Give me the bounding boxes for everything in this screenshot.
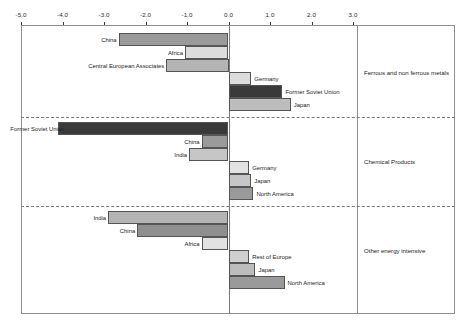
bar: [229, 72, 252, 85]
bar: [202, 237, 229, 250]
bar: [229, 250, 250, 263]
bar: [119, 33, 229, 46]
bar: [229, 276, 285, 289]
bar-label: Africa: [184, 240, 199, 247]
bar: [58, 122, 228, 135]
bar: [137, 224, 228, 237]
bar: [229, 174, 252, 187]
bar: [229, 187, 254, 200]
group-caption: Ferrous and non ferrous metals: [364, 69, 449, 76]
x-axis-tick-label: -3.0: [98, 11, 109, 18]
bar-label: Africa: [168, 49, 183, 56]
x-axis-tick-label: 2.0: [307, 11, 316, 18]
bar: [229, 263, 256, 276]
x-axis-tick-label: -4.0: [57, 11, 68, 18]
bar-label: China: [184, 138, 199, 145]
bar-chart: -5.0-4.0-3.0-2.0-1.00.01.02.03.0 ChinaAf…: [0, 0, 468, 324]
group-caption: Other energy intensive: [364, 247, 425, 254]
bar-label: India: [93, 214, 106, 221]
bar: [108, 211, 228, 224]
bar: [185, 46, 229, 59]
bar-label: North America: [288, 279, 325, 286]
bar: [202, 135, 229, 148]
bar-label: China: [120, 227, 135, 234]
x-axis-tick-label: 0.0: [224, 11, 233, 18]
bar: [229, 98, 291, 111]
bar-label: Former Soviet Union: [285, 88, 339, 95]
bar-label: Germany: [254, 75, 278, 82]
bar-label: India: [174, 151, 187, 158]
x-axis-tick-label: -2.0: [140, 11, 151, 18]
group-caption: Chemical Products: [364, 158, 415, 165]
bar-label: China: [101, 36, 116, 43]
x-axis-tick-label: 3.0: [349, 11, 358, 18]
bar-label: Japan: [258, 266, 274, 273]
bar-label: Japan: [254, 177, 270, 184]
bar: [229, 85, 283, 98]
bar-label: Japan: [294, 101, 310, 108]
bar: [166, 59, 228, 72]
x-axis-tick-label: -5.0: [15, 11, 26, 18]
bar-label: Germany: [252, 164, 276, 171]
caption-panel-divider: [357, 25, 358, 314]
bar: [229, 161, 250, 174]
bar-label: Central European Associates: [88, 62, 164, 69]
bar-label: Former Soviet Union: [10, 125, 56, 132]
x-axis-tick-label: -1.0: [181, 11, 192, 18]
bar-label: Rest of Europe: [252, 253, 291, 260]
group-separator: [21, 117, 455, 118]
bar-label: North America: [256, 190, 293, 197]
group-separator: [21, 206, 455, 207]
bar: [189, 148, 228, 161]
x-axis-tick-label: 1.0: [266, 11, 275, 18]
